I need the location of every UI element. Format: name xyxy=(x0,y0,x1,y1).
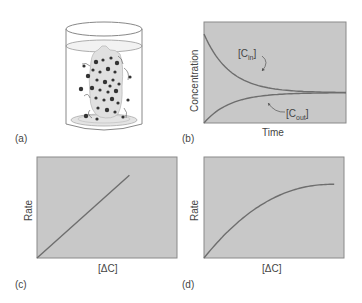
solute-particle xyxy=(105,108,109,112)
solute-particle xyxy=(113,110,116,113)
solute-particle xyxy=(86,74,90,78)
panel-c-label: (c) xyxy=(15,279,27,290)
particle-trail xyxy=(124,68,129,80)
solute-particle xyxy=(102,98,105,101)
panel-d-chart: [ΔC] Rate xyxy=(189,157,344,274)
solute-particle xyxy=(103,80,107,84)
solute-particle xyxy=(128,75,131,78)
solute-particle xyxy=(113,70,116,73)
beaker-rim xyxy=(66,22,142,36)
panel-c-chart: [ΔC] Rate xyxy=(23,157,177,274)
panel-b-chart: [Cin] [Cout] Time Concentration xyxy=(189,22,346,138)
panel-c-plot-area xyxy=(37,157,177,258)
solute-particle xyxy=(79,87,83,91)
solute-particle xyxy=(94,60,98,64)
panel-b-ylabel: Concentration xyxy=(189,50,200,112)
solute-particle xyxy=(95,78,98,81)
panel-d-label: (d) xyxy=(182,279,194,290)
figure: (a) [Cin] [Cout] Time Concentration (b) … xyxy=(0,0,362,303)
panel-d-plot-area xyxy=(204,157,344,258)
panel-a-beaker xyxy=(66,22,142,130)
panel-b-label: (b) xyxy=(182,133,194,144)
panel-d-xlabel: [ΔC] xyxy=(262,263,282,274)
solute-particle xyxy=(117,82,120,85)
solute-particle xyxy=(126,98,129,101)
panel-c-xlabel: [ΔC] xyxy=(98,263,118,274)
solute-particle xyxy=(106,90,109,93)
solute-particle xyxy=(98,70,101,73)
solute-particle xyxy=(98,88,101,91)
solute-particle xyxy=(106,67,110,71)
particle-trail xyxy=(84,94,90,98)
panel-c-ylabel: Rate xyxy=(23,199,34,221)
panel-a-label: (a) xyxy=(15,133,27,144)
solute-particle xyxy=(94,96,97,99)
solute-particle xyxy=(90,86,94,90)
solute-particle xyxy=(95,117,98,120)
solute-particle xyxy=(91,68,94,71)
solute-particle xyxy=(116,101,119,104)
solute-particle xyxy=(121,115,124,118)
solute-particle xyxy=(84,114,88,118)
panel-d-ylabel: Rate xyxy=(189,199,200,221)
solute-particle xyxy=(108,84,111,87)
solute-particle xyxy=(96,106,99,109)
solute-particle xyxy=(109,56,112,59)
solute-particle xyxy=(115,61,119,65)
solute-particle xyxy=(82,64,85,67)
solute-particle xyxy=(114,89,118,93)
solute-particle xyxy=(111,78,114,81)
solute-particle xyxy=(101,58,104,61)
solute-particle xyxy=(110,97,114,101)
panel-b-xlabel: Time xyxy=(262,127,284,138)
panel-b-plot-area xyxy=(204,22,346,123)
